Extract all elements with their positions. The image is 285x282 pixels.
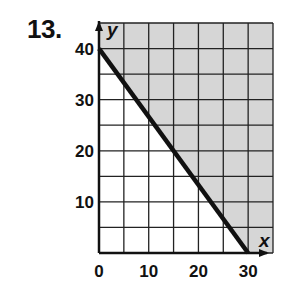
x-tick-label: 30: [239, 262, 258, 281]
x-tick-label: 0: [94, 262, 103, 281]
x-tick-label: 20: [189, 262, 208, 281]
y-tick-label: 40: [75, 40, 94, 59]
shaded-region: [99, 23, 273, 253]
x-axis-label: x: [258, 230, 271, 251]
y-axis-label: y: [106, 19, 119, 40]
inequality-graph: 010203010203040xy: [0, 0, 285, 282]
y-tick-label: 20: [75, 142, 94, 161]
x-tick-label: 10: [139, 262, 158, 281]
shaded-area: [99, 23, 273, 253]
y-tick-label: 30: [75, 91, 94, 110]
y-tick-label: 10: [75, 193, 94, 212]
